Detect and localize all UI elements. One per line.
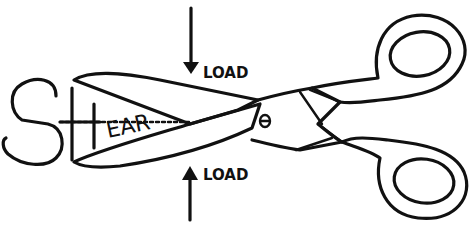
load-label-bottom: LOAD (203, 166, 248, 184)
lower-blade (74, 104, 260, 167)
lower-handle (342, 138, 467, 218)
lower-handle-hole (391, 155, 457, 207)
arrow-head-down-icon (183, 62, 199, 74)
letter-s (3, 80, 62, 165)
load-label-top: LOAD (203, 64, 248, 82)
upper-handle-hole (387, 27, 454, 81)
arrow-head-up-icon (182, 166, 198, 180)
letter-h (60, 88, 100, 160)
shear-diagram: LOAD LOAD EAR (0, 0, 473, 230)
upper-handle (312, 15, 465, 103)
